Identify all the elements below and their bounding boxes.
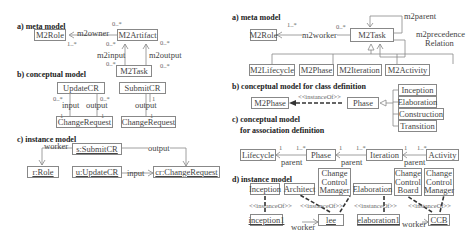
ccb-object: CCB: [428, 214, 450, 226]
output-link-label: output: [148, 144, 170, 153]
m2task-class: M2Task: [350, 28, 394, 42]
m2output-label: m2output: [149, 51, 182, 60]
m2task-class: M2Task: [116, 65, 152, 77]
instanceof-stereotype: <<instanceOf>>: [298, 94, 341, 101]
inception1-object: inception1: [250, 214, 283, 226]
relation-label: Relation: [425, 39, 454, 48]
inception-class: Inception: [250, 183, 280, 195]
m2role-class: M2Role: [34, 29, 66, 41]
m2phase-class: M2Phase: [299, 64, 334, 76]
multiplicity: 0..*: [160, 40, 170, 47]
worker-label: worker: [402, 220, 426, 229]
inception-class: Inception: [398, 84, 437, 96]
iteration-class: Iteration: [366, 149, 403, 161]
m2worker-label: m2worker: [302, 31, 337, 40]
multiplicity: 1: [150, 113, 153, 120]
lifecycle-class: Lifecycle: [240, 149, 276, 161]
left-conceptual-model-title: b) conceptual model: [17, 71, 86, 79]
parent-label: parent: [341, 158, 362, 167]
right-association-definition-title-1: c) conceptual model: [232, 116, 300, 124]
phase-class: Phase: [347, 97, 379, 109]
submitcr-class: SubmitCR: [119, 82, 166, 94]
instanceof-stereotype: <<instanceOf>>: [408, 203, 451, 210]
m2activity-class: M2Activity: [385, 64, 430, 76]
multiplicity: 1: [339, 145, 342, 152]
m2owner-label: m2owner: [77, 29, 109, 38]
phase-class: Phase: [306, 149, 336, 161]
input-label: input: [62, 101, 79, 110]
changerequest-object: cr:ChangeRequest: [153, 166, 220, 178]
m2role-class: M2Role: [250, 29, 277, 41]
instanceof-stereotype: <<instanceOf>>: [249, 203, 292, 210]
changerequest-class-1: ChangeRequest: [56, 116, 113, 128]
right-class-definition-title: b) conceptual model for class definition: [232, 83, 366, 91]
multiplicity: 1: [60, 113, 63, 120]
change-control-manager-class: Change Control Manager: [318, 168, 351, 196]
multiplicity: 1..*: [287, 22, 297, 29]
worker-label: worker: [291, 223, 315, 232]
worker-label: worker: [44, 142, 68, 151]
m2lifecycle-class: M2Lifecycle: [249, 64, 295, 76]
change-control-board-class: Change Control Board: [394, 168, 422, 196]
multiplicity: 1..*: [417, 145, 427, 152]
elaboration-class: Elaboration: [398, 96, 437, 108]
multiplicity: 1..*: [67, 41, 77, 48]
activity-class: Activity: [426, 149, 459, 161]
instanceof-stereotype: <<instanceOf>>: [300, 203, 343, 210]
submitcr-object: s:SubmitCR: [72, 143, 122, 155]
updatecr-class: UpdateCR: [57, 82, 105, 94]
updatecr-object: u:UpdateCR: [72, 166, 122, 178]
role-object: r:Role: [27, 166, 59, 178]
multiplicity: 0..*: [112, 21, 122, 28]
lee-object: lee: [318, 214, 344, 226]
change-control-manager-class: Change Control Manager: [424, 168, 454, 196]
right-meta-model-title: a) meta model: [232, 14, 280, 22]
m2parent-label: m2parent: [404, 12, 436, 21]
transition-class: Transition: [398, 120, 437, 132]
instanceof-stereotype: <<instanceOf>>: [354, 203, 397, 210]
parent-label: parent: [404, 158, 425, 167]
multiplicity: 1..*: [296, 145, 306, 152]
multiplicity: 0..*: [53, 96, 63, 103]
multiplicity: 0..*: [100, 96, 110, 103]
elaboration-class: Elaboration: [353, 183, 392, 195]
multiplicity: 0..*: [106, 41, 116, 48]
elaboration1-object: elaboration1: [357, 214, 400, 226]
multiplicity: 1: [404, 145, 407, 152]
multiplicity: 0..*: [160, 63, 170, 70]
right-association-definition-title-2: for association definition: [240, 127, 324, 135]
changerequest-class-2: ChangeRequest: [121, 116, 176, 128]
construction-class: Construction: [398, 108, 444, 120]
m2phase-class: M2Phase: [251, 97, 289, 109]
m2artifact-class: M2Artifact: [117, 29, 158, 41]
multiplicity: 1: [101, 113, 104, 120]
m2iteration-class: M2Iteration: [337, 64, 382, 76]
multiplicity: 1: [279, 145, 282, 152]
multiplicity: 1: [152, 96, 155, 103]
architect-class: Architect: [284, 183, 315, 195]
m2input-label: m2input: [97, 51, 125, 60]
multiplicity: 0..*: [336, 24, 346, 31]
multiplicity: 1..*: [356, 145, 366, 152]
input-link-label: input: [127, 169, 144, 178]
multiplicity: 0..*: [106, 61, 116, 68]
parent-label: parent: [281, 158, 302, 167]
